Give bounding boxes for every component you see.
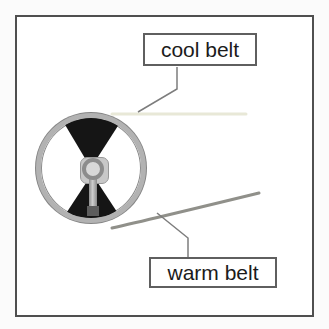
- diagram-canvas: cool belt warm belt: [0, 0, 329, 329]
- pulley-wheel-icon: [36, 113, 146, 223]
- cool-belt-label: cool belt: [143, 33, 257, 66]
- warm-belt-label: warm belt: [149, 257, 277, 288]
- hub-stem-cap: [87, 206, 99, 216]
- wheel-face: [41, 118, 141, 218]
- cool-belt-label-text: cool belt: [161, 38, 239, 62]
- hub-ring-icon: [82, 158, 104, 180]
- warm-belt-label-text: warm belt: [167, 261, 258, 285]
